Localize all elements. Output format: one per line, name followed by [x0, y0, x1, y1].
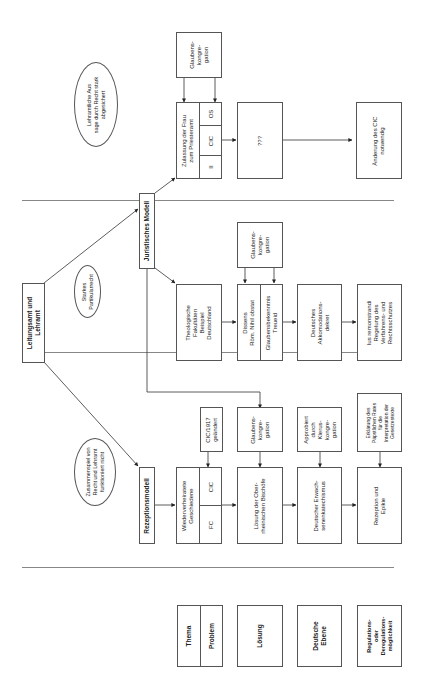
sub-ii: II — [208, 165, 215, 168]
box-text: Approbiert durch Klerus- kongre- gation — [302, 408, 337, 452]
bottom-deutsche-ebene: Deutscher Erwach- senenkatechismus — [297, 467, 342, 544]
annotation-starkes-partikularrecht: Starkes Partikularrecht — [74, 265, 101, 318]
annotation-lehramtliche: Lehramtliche Aus sage durch Recht stark … — [74, 62, 118, 147]
top-loesung: ??? — [237, 102, 283, 179]
top-glaubenskongregation: Glaubens- kongre- gation — [176, 32, 222, 78]
box-text: Deutsches Akkomodations- dekret — [309, 286, 330, 360]
legend-text: Deutsche Ebene — [312, 607, 328, 665]
legend-thema: Thema — [185, 607, 193, 665]
model-rezeptions: Rezeptionsmodell — [139, 467, 155, 544]
box-text: Theologische Fakultäten Beispiel Deutsch… — [185, 286, 213, 360]
box-text: Wiederverheiratete Geschiedene — [181, 469, 195, 543]
box-text: Dissens Röm. Nihil obstat — [242, 286, 256, 360]
box-text: ??? — [257, 135, 264, 145]
middle-regulation: Ius remonstrandi Regelung des Verfahrens… — [357, 284, 402, 361]
model-label: Juristisches Modell — [143, 194, 151, 268]
separator-top — [22, 200, 394, 201]
model-juristisches: Juristisches Modell — [139, 193, 155, 269]
bottom-erklaerung: Erklärung des Päpstlichen Rates für die … — [357, 393, 402, 452]
box-text: Zulassung der Frau zum Priesteramt — [181, 104, 195, 178]
legend-text: Lösung — [256, 607, 264, 665]
legend-thema-problem: Thema Problem — [177, 605, 223, 667]
middle-glaubenskongregation: Glaubens- kongre- gation — [237, 222, 283, 268]
box-text: Glaubens- kongre- gation — [189, 33, 210, 77]
legend-regulation: Regulations- oder Deregulations- möglich… — [357, 605, 402, 667]
legend-text: Regulations- oder Deregulations- möglich… — [366, 606, 394, 666]
bottom-loesung: Lösung der Ober- rheinischen Bischöfe — [237, 467, 283, 544]
annotation-text: Starkes Partikularrecht — [81, 267, 95, 317]
sub-cic: CIC — [208, 481, 215, 491]
legend-problem: Problem — [208, 607, 216, 665]
annotation-text: Lehramtliche Aus sage durch Recht stark … — [86, 65, 107, 145]
box-text: Glaubensbekenntnis Treueid — [265, 286, 279, 360]
box-text: Lösung der Ober- rheinischen Bischöfe — [253, 469, 267, 543]
middle-loesung-dissens: Dissens Röm. Nihil obstat Glaubensbekenn… — [237, 284, 283, 361]
box-text: Ius remonstrandi Regelung des Verfahrens… — [366, 286, 394, 360]
bottom-approbiert: Approbiert durch Klerus- kongre- gation — [297, 407, 342, 452]
bottom-thema-wiederverheiratete: Wiederverheiratete Geschiedene CIC FC — [176, 467, 222, 544]
annotation-text: Zusammenspiel von Recht und Lehramt funk… — [85, 439, 106, 505]
sub-os: OS — [208, 110, 215, 119]
legend-deutsche-ebene: Deutsche Ebene — [297, 605, 342, 667]
bottom-glaubenskongregation: Glaubens- kongre- gation — [237, 407, 283, 452]
middle-deutsche-ebene: Deutsches Akkomodations- dekret — [297, 284, 342, 361]
box-text: Änderung des CIC notwendig — [372, 104, 386, 178]
annotation-zusammenspiel: Zusammenspiel von Recht und Lehramt funk… — [74, 438, 116, 506]
box-text: Erklärung des Päpstlichen Rates für die … — [365, 394, 395, 452]
model-label: Rezeptionsmodell — [143, 469, 151, 543]
box-text: Glaubens- kongre- gation — [250, 408, 271, 452]
separator-bottom — [22, 567, 394, 568]
box-text: CIC/1917 geändert — [205, 408, 219, 452]
sub-cic: CIC — [208, 135, 215, 145]
bottom-cic1917: CIC/1917 geändert — [200, 407, 223, 452]
sub-fc: FC — [208, 521, 215, 529]
top-regulation: Änderung des CIC notwendig — [356, 102, 402, 179]
root-leitungsamt-lehramt: Leitungsamt und Lehramt — [22, 283, 45, 363]
root-label: Leitungsamt und Lehramt — [26, 285, 42, 361]
box-text: Rezeption und Epikie — [373, 469, 387, 543]
bottom-regulation: Rezeption und Epikie — [357, 467, 402, 544]
legend-loesung: Lösung — [237, 605, 283, 667]
top-thema-zulassung: Zulassung der Frau zum Priesteramt OS CI… — [176, 102, 222, 179]
middle-thema-fakultaeten: Theologische Fakultäten Beispiel Deutsch… — [176, 284, 222, 361]
box-text: Deutscher Erwach- senenkatechismus — [313, 469, 327, 543]
box-text: Glaubens- kongre- gation — [250, 223, 271, 267]
